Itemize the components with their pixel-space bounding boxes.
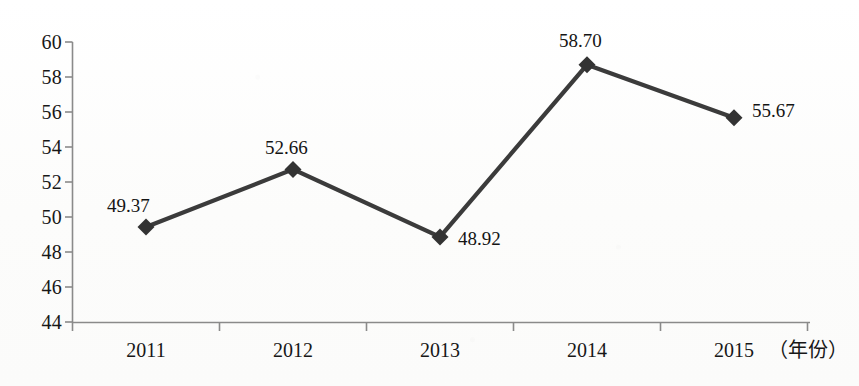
data-label-2013: 48.92 <box>458 229 501 248</box>
x-axis-tick-label-2011: 2011 <box>126 340 165 360</box>
series-line <box>146 65 734 237</box>
data-point-marker-2015 <box>726 109 743 126</box>
data-label-2014: 58.70 <box>559 31 602 50</box>
y-axis-ticks <box>65 42 73 322</box>
x-axis-tick-label-2014: 2014 <box>567 340 607 360</box>
data-label-2011: 49.37 <box>107 196 150 215</box>
data-point-marker-2012 <box>285 161 302 178</box>
x-axis-unit-label: （年份） <box>768 340 848 360</box>
x-axis-tick-label-2012: 2012 <box>273 340 313 360</box>
data-point-marker-2011 <box>138 219 155 236</box>
series-markers <box>138 56 743 245</box>
x-axis-ticks <box>73 322 808 331</box>
x-axis-tick-label-2013: 2013 <box>420 340 460 360</box>
data-label-2015: 55.67 <box>752 101 795 120</box>
data-label-2012: 52.66 <box>265 138 308 157</box>
plot-area <box>0 0 859 386</box>
line-chart-figure: 60 58 56 54 52 50 48 46 44 <box>0 0 859 386</box>
x-axis-tick-label-2015: 2015 <box>714 340 754 360</box>
